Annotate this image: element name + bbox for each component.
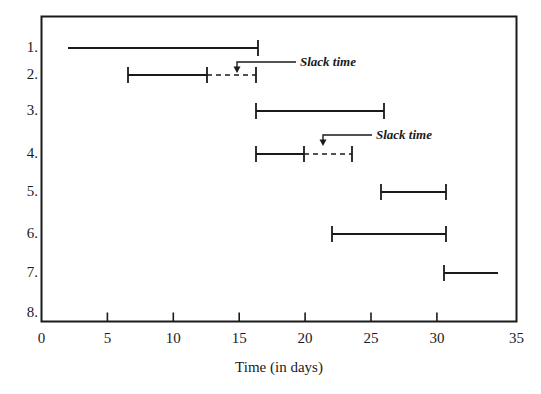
gantt-bar-row-5 xyxy=(381,184,446,200)
slack-time-annotation-1: Slack time xyxy=(300,54,356,70)
row-label-1: 1. xyxy=(8,39,38,56)
x-tick-label-25: 25 xyxy=(351,330,391,347)
x-tick-label-15: 15 xyxy=(219,330,259,347)
slack-time-leader-1 xyxy=(234,62,297,73)
row-label-5: 5. xyxy=(8,183,38,200)
gantt-chart-canvas xyxy=(0,0,541,394)
slack-time-annotation-2: Slack time xyxy=(376,127,432,143)
row-label-7: 7. xyxy=(8,264,38,281)
row-label-6: 6. xyxy=(8,225,38,242)
x-tick-label-35: 35 xyxy=(497,330,537,347)
x-tick-label-0: 0 xyxy=(22,330,62,347)
x-axis-ticks xyxy=(42,313,437,322)
gantt-bar-row-7 xyxy=(444,265,498,281)
row-label-4: 4. xyxy=(8,145,38,162)
gantt-bar-row-6 xyxy=(332,226,446,242)
x-tick-label-5: 5 xyxy=(87,330,127,347)
x-axis-title: Time (in days) xyxy=(149,359,409,376)
slack-time-leader-2 xyxy=(320,135,373,146)
gantt-bar-row-3 xyxy=(256,103,384,119)
row-label-8: 8. xyxy=(8,304,38,321)
x-tick-label-30: 30 xyxy=(417,330,457,347)
row-label-3: 3. xyxy=(8,102,38,119)
x-tick-label-10: 10 xyxy=(153,330,193,347)
row-label-2: 2. xyxy=(8,66,38,83)
gantt-bar-row-1 xyxy=(68,40,258,56)
gantt-chart: 1. 2. 3. 4. 5. 6. 7. 8. 0 5 10 15 20 25 … xyxy=(0,0,541,394)
x-tick-label-20: 20 xyxy=(285,330,325,347)
